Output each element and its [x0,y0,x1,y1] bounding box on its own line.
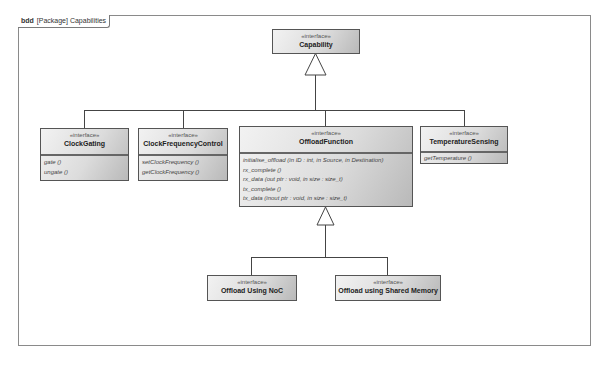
block-clock-frequency-control[interactable]: «interface» ClockFrequencyControl setClo… [138,128,228,181]
block-header: «interface» OffloadFunction [240,127,412,154]
block-clock-gating[interactable]: «interface» ClockGating gate () ungate (… [40,128,129,181]
block-name: OffloadFunction [240,137,412,147]
operations-compartment: initialise_offload (in ID : int, in Sour… [240,154,412,204]
operation: getClockFrequency () [142,168,225,178]
block-header: «interface» ClockGating [41,129,128,156]
operation: gate () [44,158,126,168]
generalization-arrow-offload [317,207,334,225]
stereotype-label: «interface» [41,129,128,139]
block-header: «interface» ClockFrequencyControl [139,129,227,156]
operation: rx_data (out ptr : void, in size : size_… [243,175,410,185]
block-header: «interface» Capability [273,30,359,50]
stereotype-label: «interface» [139,129,227,139]
operation: getTemperature () [424,154,505,164]
block-offload-function[interactable]: «interface» OffloadFunction initialise_o… [239,126,413,207]
operation: tx_complete () [243,185,410,195]
block-temperature-sensing[interactable]: «interface» TemperatureSensing getTemper… [420,126,508,164]
operation: setClockFrequency () [142,158,225,168]
operation: rx_complete () [243,166,410,176]
block-name: Offload Using NoC [208,286,296,296]
operation: ungate () [44,168,126,178]
operations-compartment: setClockFrequency () getClockFrequency (… [139,156,227,177]
block-capability[interactable]: «interface» Capability [272,29,360,54]
block-offload-using-shared-memory[interactable]: «interface» Offload using Shared Memory [335,275,441,301]
block-header: «interface» Offload using Shared Memory [336,276,440,296]
generalization-arrow-capability [305,54,326,76]
block-header: «interface» TemperatureSensing [421,127,507,153]
block-name: Offload using Shared Memory [336,286,440,296]
stereotype-label: «interface» [273,30,359,40]
block-name: TemperatureSensing [421,137,507,147]
block-offload-using-noc[interactable]: «interface» Offload Using NoC [207,275,297,301]
operations-compartment: getTemperature () [421,153,507,164]
operations-compartment: gate () ungate () [41,156,128,177]
block-header: «interface» Offload Using NoC [208,276,296,296]
operation: initialise_offload (in ID : int, in Sour… [243,156,410,166]
stereotype-label: «interface» [421,127,507,137]
stereotype-label: «interface» [336,276,440,286]
block-name: ClockGating [41,139,128,149]
stereotype-label: «interface» [240,127,412,137]
block-name: ClockFrequencyControl [139,139,227,149]
stereotype-label: «interface» [208,276,296,286]
block-name: Capability [273,40,359,50]
operation: tx_data (inout ptr : void, in size : siz… [243,194,410,204]
